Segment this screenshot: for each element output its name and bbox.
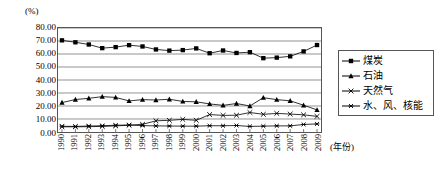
- legend-label: 煤炭: [361, 55, 383, 67]
- x-axis-tick: 2001: [205, 134, 214, 151]
- plot-area: [57, 27, 322, 133]
- data-point-marker: [261, 95, 266, 100]
- chart-legend: 煤炭石油天然气水、风、核能: [338, 50, 434, 116]
- legend-marker-square-icon: [341, 55, 361, 67]
- x-axis-tick: 1998: [165, 134, 174, 151]
- data-point-marker: [315, 43, 319, 47]
- data-point-marker: [275, 55, 279, 59]
- y-axis-tick-labels: 0.0010.0020.0030.0040.0050.0060.0070.008…: [20, 0, 56, 175]
- x-axis-tick: 1997: [151, 134, 160, 151]
- x-axis-title: (年份): [330, 140, 354, 153]
- legend-item[interactable]: 煤炭: [341, 53, 430, 68]
- x-axis-tick: 2003: [232, 134, 241, 151]
- data-point-marker: [194, 46, 198, 50]
- data-point-marker: [100, 46, 104, 50]
- x-axis-tick: 1994: [111, 134, 120, 151]
- data-point-marker: [113, 45, 117, 49]
- x-axis-tick: 2000: [192, 134, 201, 151]
- x-axis-tick: 2009: [314, 134, 323, 151]
- y-axis-tick: 10.00: [22, 115, 56, 124]
- data-point-marker: [221, 48, 225, 52]
- x-axis-tick: 1990: [57, 134, 66, 151]
- y-axis-tick: 0.00: [22, 129, 56, 138]
- data-point-marker: [234, 101, 239, 106]
- x-axis-tick: 1991: [70, 134, 79, 151]
- y-axis-tick: 80.00: [22, 23, 56, 32]
- data-point-marker: [127, 43, 131, 47]
- y-axis-tick: 50.00: [22, 62, 56, 71]
- y-axis-tick: 60.00: [22, 49, 56, 58]
- data-point-marker: [234, 51, 238, 55]
- x-axis-tick-labels: 1990199119921993199419951996199719981999…: [57, 134, 322, 175]
- data-point-marker: [301, 49, 305, 53]
- x-axis-tick: 1999: [178, 134, 187, 151]
- legend-item[interactable]: 水、风、核能: [341, 98, 430, 113]
- y-axis-tick: 30.00: [22, 89, 56, 98]
- chart-container: (%) 0.0010.0020.0030.0040.0050.0060.0070…: [0, 0, 441, 175]
- x-axis-tick: 1993: [97, 134, 106, 151]
- data-point-marker: [140, 44, 144, 48]
- x-tick-marks: [62, 129, 317, 132]
- x-axis-tick: 2005: [259, 134, 268, 151]
- y-axis-tick: 40.00: [22, 76, 56, 85]
- legend-label: 水、风、核能: [361, 100, 423, 112]
- y-axis-tick: 70.00: [22, 36, 56, 45]
- x-axis-tick: 1995: [124, 134, 133, 151]
- data-point-marker: [349, 58, 353, 62]
- series-asterisk: [60, 122, 320, 128]
- legend-marker-x-icon: [341, 85, 361, 97]
- legend-marker-asterisk-icon: [341, 100, 361, 112]
- data-point-marker: [207, 51, 211, 55]
- series-square: [60, 38, 319, 60]
- x-axis-tick: 1992: [84, 134, 93, 151]
- x-axis-tick: 2008: [300, 134, 309, 151]
- data-point-marker: [154, 47, 158, 51]
- data-point-marker: [261, 56, 265, 60]
- series-triangle: [59, 94, 319, 112]
- data-point-marker: [181, 48, 185, 52]
- legend-marker-triangle-icon: [341, 70, 361, 82]
- x-axis-tick: 2006: [273, 134, 282, 151]
- plot-svg: [58, 28, 321, 132]
- legend-item[interactable]: 天然气: [341, 83, 430, 98]
- data-point-marker: [288, 54, 292, 58]
- data-point-marker: [167, 48, 171, 52]
- x-axis-tick: 2004: [246, 134, 255, 151]
- legend-item[interactable]: 石油: [341, 68, 430, 83]
- data-point-marker: [248, 50, 252, 54]
- legend-label: 天然气: [361, 85, 393, 97]
- legend-label: 石油: [361, 70, 383, 82]
- x-axis-tick: 1996: [138, 134, 147, 151]
- y-axis-tick: 20.00: [22, 102, 56, 111]
- x-axis-tick: 2007: [286, 134, 295, 151]
- x-axis-tick: 2002: [219, 134, 228, 151]
- data-point-marker: [73, 40, 77, 44]
- data-point-marker: [87, 42, 91, 46]
- data-point-marker: [60, 38, 64, 42]
